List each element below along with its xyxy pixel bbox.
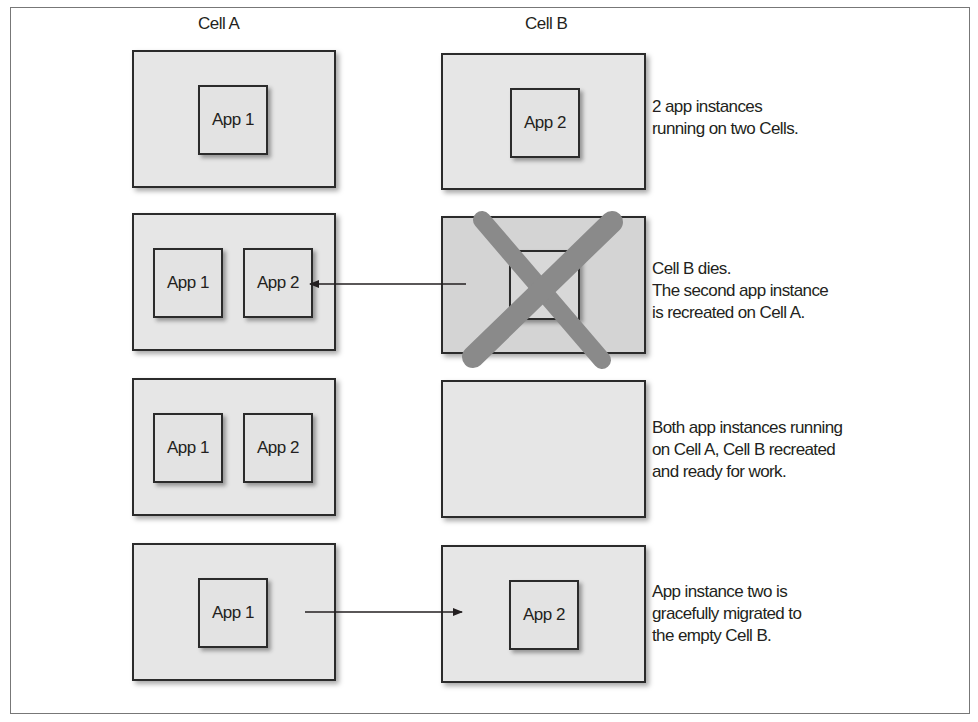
x-mark-icon: [473, 220, 612, 360]
diagram-overlay: [0, 0, 978, 722]
